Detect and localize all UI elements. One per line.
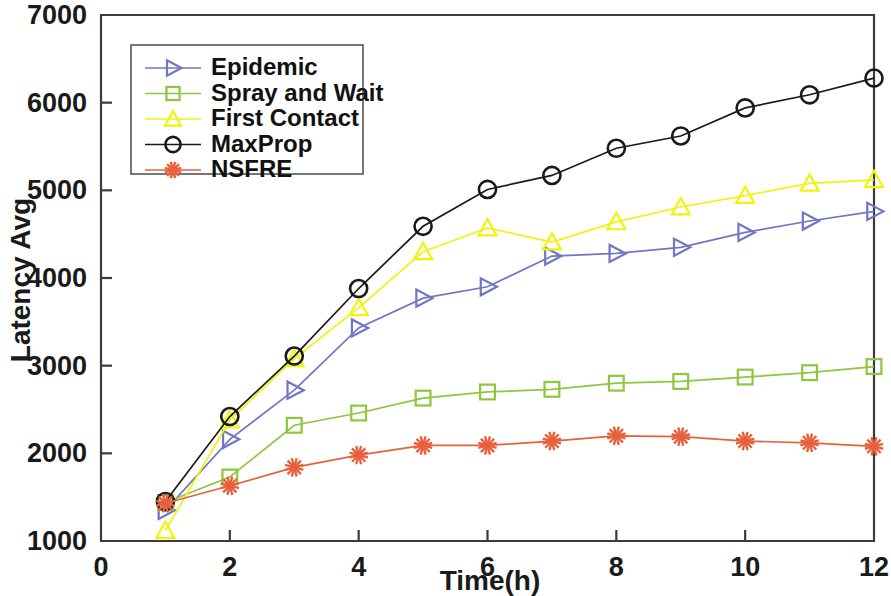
legend-label: MaxProp [211,130,312,157]
legend-label: Spray and Wait [211,79,383,106]
y-tick-label: 6000 [27,88,87,118]
y-tick-label: 2000 [27,438,87,468]
data-point-marker [285,458,303,476]
series-epidemic [159,203,884,519]
x-tick-label: 0 [93,552,108,582]
chart-canvas: 1000200030004000500060007000 024681012 L… [0,0,891,596]
data-point-marker [350,446,368,464]
x-tick-label: 4 [351,552,366,582]
series-line [165,367,874,503]
y-axis-title: Latency Avg [5,198,36,362]
y-axis-ticks [101,103,112,454]
x-tick-label: 2 [222,552,237,582]
x-axis-ticks [230,530,745,541]
x-tick-label: 12 [859,552,889,582]
series-line [165,436,874,504]
series-nsfre [156,427,883,513]
x-tick-label: 8 [609,552,624,582]
data-point-marker [221,477,239,495]
latency-avg-line-chart: 1000200030004000500060007000 024681012 L… [0,0,891,596]
y-tick-label: 1000 [27,526,87,556]
y-tick-label: 7000 [27,0,87,30]
legend-label: Epidemic [211,53,318,80]
legend: EpidemicSpray and WaitFirst ContactMaxPr… [131,45,383,182]
x-axis-title: Time(h) [440,565,541,596]
series-line [165,180,874,531]
legend-label: NSFRE [211,155,292,182]
legend-label: First Contact [211,104,359,131]
series-line [165,211,874,510]
x-tick-label: 10 [730,552,760,582]
series-first-contact [156,171,883,538]
